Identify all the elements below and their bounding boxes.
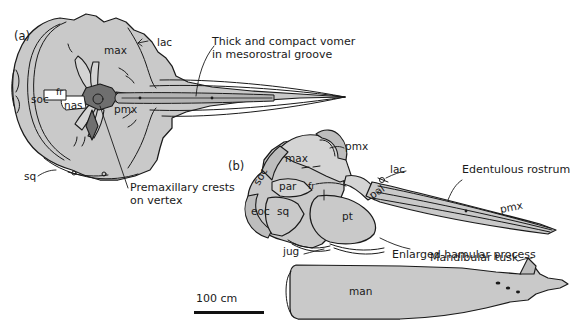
label-b-fr: fr — [308, 180, 315, 191]
rostrum-lateral — [366, 182, 556, 234]
label-a-sq: sq — [24, 170, 36, 182]
leader-sq — [38, 170, 56, 176]
label-b-pt: pt — [342, 210, 353, 222]
annotation-vomer: Thick and compact vomer in mesorostral g… — [212, 36, 392, 62]
label-b-pmx: pmx — [345, 140, 368, 152]
mental-foramen-3 — [516, 291, 520, 294]
label-a-nas: nas — [64, 99, 83, 111]
scale-bar — [194, 311, 264, 314]
mandible-group — [286, 258, 568, 319]
label-a-pmx: pmx — [114, 103, 137, 115]
mental-foramen-1 — [496, 281, 501, 284]
label-a-soc: soc — [31, 93, 49, 105]
rostrum-foramen-b — [465, 210, 468, 213]
annotation-mandibular-tusk: Mandibular tusk — [430, 252, 518, 265]
label-b-lac: lac — [390, 163, 405, 175]
vomer-foramen-2 — [211, 97, 214, 100]
mental-foramen-2 — [506, 287, 510, 290]
leader-rostrum — [448, 180, 462, 200]
label-b-jug: jug — [283, 245, 299, 257]
annotation-vomer-line2: in mesorostral groove — [212, 49, 392, 62]
label-b-eoc: eoc — [251, 205, 270, 217]
panel-a-label: (a) — [14, 30, 30, 44]
label-a-lac: lac — [157, 36, 172, 48]
figure-canvas: .bone { fill:#c9c9c9; stroke:#1a1a1a; st… — [0, 0, 581, 333]
label-b-par: par — [279, 180, 296, 192]
scale-bar-label: 100 cm — [196, 293, 237, 306]
label-b-man: man — [349, 285, 372, 297]
label-a-fr: fr — [56, 86, 63, 97]
label-b-sq: sq — [277, 205, 289, 217]
panel-b-label: (b) — [228, 160, 244, 174]
label-b-max: max — [285, 152, 308, 164]
label-a-max: max — [104, 44, 127, 56]
vomer-foramen-1 — [139, 97, 142, 100]
annotation-edentulous-rostrum: Edentulous rostrum — [462, 164, 570, 177]
